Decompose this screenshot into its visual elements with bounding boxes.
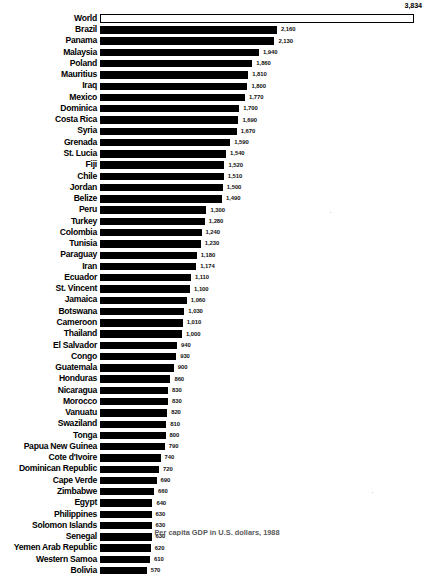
bar xyxy=(100,116,238,123)
bar-value-label: 1,060 xyxy=(187,297,206,304)
bar-value-label: 830 xyxy=(168,387,182,394)
bar-category-label: Iran xyxy=(0,262,100,272)
bar-category-label: Morocco xyxy=(0,397,100,407)
bar xyxy=(100,567,147,574)
bar-category-label: Brazil xyxy=(0,25,100,35)
bar-row: Mauritius1,810 xyxy=(0,69,434,80)
bar-row: Vanuatu820 xyxy=(0,407,434,418)
bar-row: Dominica1,700 xyxy=(0,103,434,114)
bar-row: World3,834 xyxy=(0,13,434,24)
bar-row: Philippines630 xyxy=(0,509,434,520)
bar-value-label: 1,520 xyxy=(224,162,243,169)
bar-row: Congo930 xyxy=(0,351,434,362)
bar-row: Bolivia570 xyxy=(0,565,434,576)
bar-value-label: 1,030 xyxy=(184,308,203,315)
bar-value-label: 820 xyxy=(167,409,181,416)
bar-row: Tunisia1,230 xyxy=(0,238,434,249)
bar xyxy=(100,375,170,382)
bar-value-label: 1,180 xyxy=(197,252,216,259)
bar-category-label: Paraguay xyxy=(0,250,100,260)
bar-value-label: 1,510 xyxy=(224,173,243,180)
bar-category-label: Dominican Republic xyxy=(0,464,100,474)
bar-category-label: Guatemala xyxy=(0,363,100,373)
bar xyxy=(100,60,252,67)
bar-track: 1,000 xyxy=(100,328,434,339)
bar xyxy=(100,150,226,157)
bar-track: 1,510 xyxy=(100,171,434,182)
bar xyxy=(100,173,224,180)
bar xyxy=(100,105,239,112)
bar-track: 3,834 xyxy=(100,13,434,24)
bar-value-label: 1,010 xyxy=(183,319,202,326)
bar-value-label: 1,240 xyxy=(202,229,221,236)
bar-category-label: Peru xyxy=(0,205,100,215)
bar-value-label: 1,800 xyxy=(247,83,266,90)
bar xyxy=(100,398,168,405)
bar-category-label: Cape Verde xyxy=(0,476,100,486)
bar-value-label: 610 xyxy=(150,556,164,563)
bar-category-label: Belize xyxy=(0,194,100,204)
bar-value-label: 1,940 xyxy=(259,49,278,56)
bar-value-label: 790 xyxy=(165,443,179,450)
bar-category-label: Cameroon xyxy=(0,318,100,328)
bar-track: 720 xyxy=(100,464,434,475)
bar-row: Thailand1,000 xyxy=(0,328,434,339)
bar-value-label: 690 xyxy=(157,477,171,484)
bar-value-label: 1,770 xyxy=(245,94,264,101)
bar xyxy=(100,274,191,281)
bar-category-label: Honduras xyxy=(0,374,100,384)
bar-category-label: St. Lucia xyxy=(0,149,100,159)
bar-track: 930 xyxy=(100,351,434,362)
bar-row: Cameroon1,010 xyxy=(0,317,434,328)
bar-category-label: Nicaragua xyxy=(0,386,100,396)
bar-row: Jordan1,500 xyxy=(0,182,434,193)
bar xyxy=(100,421,166,428)
bar xyxy=(100,128,237,135)
bar xyxy=(100,71,248,78)
bar-category-label: El Salvador xyxy=(0,341,100,351)
bar-category-label: Fiji xyxy=(0,160,100,170)
bar-category-label: Zimbabwe xyxy=(0,487,100,497)
bar-track: 1,590 xyxy=(100,137,434,148)
bar-category-label: Cote d'Ivoire xyxy=(0,453,100,463)
bar-category-label: Yemen Arab Republic xyxy=(0,543,100,553)
bar xyxy=(100,139,230,146)
bar xyxy=(100,364,174,371)
bar-category-label: Bolivia xyxy=(0,566,100,576)
bar-category-label: Vanuatu xyxy=(0,408,100,418)
bar-value-label: 620 xyxy=(151,545,165,552)
bar-category-label: Grenada xyxy=(0,138,100,148)
bar-value-label: 800 xyxy=(166,432,180,439)
bar-track: 1,060 xyxy=(100,295,434,306)
bar-world xyxy=(100,14,414,22)
bar-category-label: Iraq xyxy=(0,81,100,91)
bar-category-label: Chile xyxy=(0,172,100,182)
bar-category-label: Colombia xyxy=(0,228,100,238)
chart-caption: Per capita GDP in U.S. dollars, 1988 xyxy=(0,529,434,536)
bar xyxy=(100,488,154,495)
bar-rows: World3,834Brazil2,160Panama2,130Malaysia… xyxy=(0,13,434,576)
bar-track: 1,030 xyxy=(100,306,434,317)
bar-row: Paraguay1,180 xyxy=(0,250,434,261)
bar-value-label: 930 xyxy=(176,353,190,360)
bar-value-label: 720 xyxy=(159,466,173,473)
bar-value-label: 1,500 xyxy=(223,184,242,191)
bar-row: Honduras860 xyxy=(0,374,434,385)
bar-track: 1,240 xyxy=(100,227,434,238)
bar-row: Ecuador1,110 xyxy=(0,272,434,283)
bar xyxy=(100,353,176,360)
bar xyxy=(100,544,151,551)
bar-row: Fiji1,520 xyxy=(0,159,434,170)
bar-row: Guatemala900 xyxy=(0,362,434,373)
bar xyxy=(100,409,167,416)
bar-track: 1,520 xyxy=(100,159,434,170)
bar-row: Swaziland810 xyxy=(0,419,434,430)
bar xyxy=(100,26,277,33)
bar-row: Grenada1,590 xyxy=(0,137,434,148)
bar-track: 2,130 xyxy=(100,36,434,47)
bar-row: St. Lucia1,540 xyxy=(0,148,434,159)
bar-track: 1,940 xyxy=(100,47,434,58)
bar xyxy=(100,443,165,450)
bar-track: 1,800 xyxy=(100,81,434,92)
